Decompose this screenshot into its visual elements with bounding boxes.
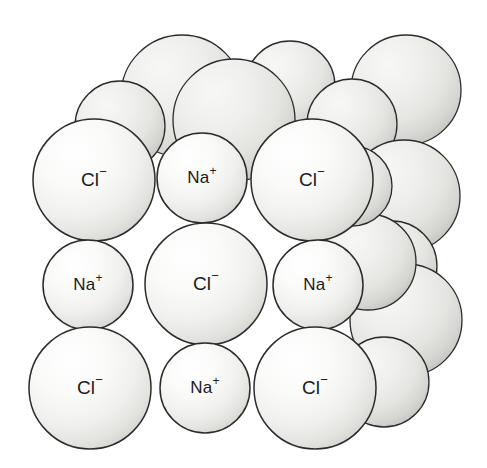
ion-sphere-chloride: Cl− [145,223,267,345]
ion-charge: + [95,271,102,285]
ion-sphere-chloride: Cl− [33,119,155,241]
ion-symbol: Na [190,378,212,397]
ion-charge: − [211,268,219,283]
ion-sphere-chloride: Cl− [251,119,373,241]
ion-charge: − [95,372,103,387]
ion-symbol: Cl [77,377,95,398]
ion-sphere-sodium: Na+ [157,133,247,223]
nacl-lattice-svg: Cl−Na+Cl−Na+Cl−Na+Cl−Na+Cl− [0,0,487,468]
ion-symbol: Cl [193,273,211,294]
ion-sphere-sodium: Na+ [273,240,363,330]
ion-charge: − [320,372,328,387]
ion-symbol: Cl [302,377,320,398]
ion-charge: + [212,374,219,388]
ion-symbol: Na [303,275,325,294]
ion-symbol: Cl [299,169,317,190]
ion-charge: + [209,164,216,178]
ion-charge: − [317,164,325,179]
ion-sphere-chloride: Cl− [29,327,151,449]
ion-symbol: Na [73,275,95,294]
ion-sphere-sodium: Na+ [43,240,133,330]
ion-charge: + [325,271,332,285]
front-layer-group: Cl−Na+Cl−Na+Cl−Na+Cl−Na+Cl− [29,119,376,449]
ion-symbol: Na [187,168,209,187]
nacl-lattice-figure: Cl−Na+Cl−Na+Cl−Na+Cl−Na+Cl− [0,0,487,468]
ion-symbol: Cl [81,169,99,190]
ion-charge: − [99,164,107,179]
ion-sphere-chloride: Cl− [254,327,376,449]
ion-sphere-sodium: Na+ [160,343,250,433]
